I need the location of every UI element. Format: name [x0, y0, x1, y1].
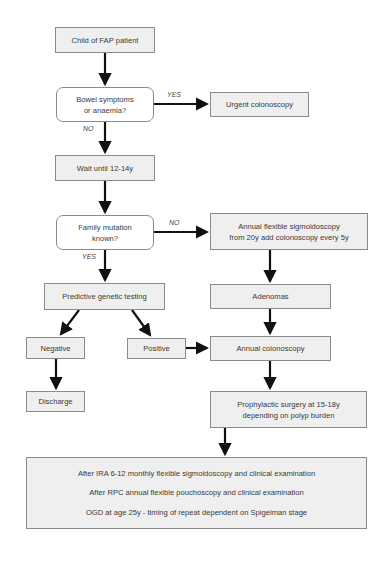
node-follow-up-surveillance: After IRA 6-12 monthly flexible sigmoido…: [26, 457, 367, 529]
node-label: Positive: [143, 343, 170, 354]
node-label: Annual flexible sigmoidoscopy from 20y a…: [229, 221, 348, 243]
follow-up-ogd: OGD at age 25y - timing of repeat depend…: [86, 507, 307, 518]
node-discharge: Discharge: [26, 391, 85, 412]
decision-family-mutation: Family mutation known?: [56, 215, 154, 250]
edge-label-no: NO: [83, 125, 94, 132]
node-predictive-genetic-testing: Predictive genetic testing: [44, 283, 165, 310]
edge-label-yes: YES: [82, 253, 96, 260]
node-label: Annual colonoscopy: [237, 343, 305, 354]
node-label: Wait until 12-14y: [77, 163, 133, 174]
node-label: Child of FAP patient: [72, 35, 139, 46]
follow-up-ira: After IRA 6-12 monthly flexible sigmoido…: [78, 468, 315, 479]
node-prophylactic-surgery: Prophylactic surgery at 15-18y depending…: [210, 391, 367, 428]
decision-bowel-symptoms: Bowel symptoms or anaemia?: [56, 87, 154, 122]
node-label: Predictive genetic testing: [62, 291, 146, 302]
node-label: Discharge: [38, 396, 72, 407]
node-wait-until: Wait until 12-14y: [55, 155, 155, 181]
edge-label-yes: YES: [167, 91, 181, 98]
follow-up-rpc: After RPC annual flexible pouchoscopy an…: [89, 487, 303, 498]
node-label: Negative: [41, 343, 71, 354]
node-label: Bowel symptoms or anaemia?: [76, 94, 133, 116]
edge-label-no: NO: [169, 219, 180, 226]
node-annual-colonoscopy: Annual colonoscopy: [210, 336, 331, 361]
node-adenomas: Adenomas: [210, 284, 331, 309]
node-label: Urgent colonoscopy: [226, 99, 293, 110]
node-positive: Positive: [127, 338, 186, 359]
node-annual-flexible-sigmoidoscopy: Annual flexible sigmoidoscopy from 20y a…: [210, 213, 368, 250]
node-negative: Negative: [26, 337, 85, 359]
node-label: Prophylactic surgery at 15-18y depending…: [237, 399, 340, 421]
node-label: Adenomas: [252, 291, 288, 302]
node-child-of-fap-patient: Child of FAP patient: [55, 27, 155, 53]
node-label: Family mutation known?: [78, 222, 132, 244]
node-urgent-colonoscopy: Urgent colonoscopy: [210, 92, 309, 117]
